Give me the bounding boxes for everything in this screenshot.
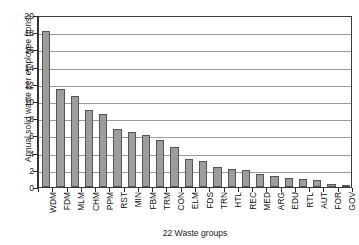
x-axis-title: 22 Waste groups [38, 228, 352, 238]
x-axis-tick-label: MLM [77, 192, 86, 226]
bar-rect [199, 161, 207, 187]
bar [170, 17, 178, 187]
y-axis-tick-label: 4 [16, 149, 34, 158]
bar [299, 17, 307, 187]
x-axis-tick-label: CHM [92, 192, 101, 226]
x-axis-tick-labels: WDMFDMMLMCHMPPMRSTMINFBMTRMCONELMFDSTRNH… [38, 192, 352, 226]
bar [99, 17, 107, 187]
bar-rect [256, 174, 264, 187]
bar-rect [85, 110, 93, 187]
bar-rect [327, 184, 335, 187]
bar [185, 17, 193, 187]
bar-rect [99, 114, 107, 187]
x-axis-tick-label: EDU [291, 192, 300, 226]
bar [71, 17, 79, 187]
x-axis-tick-label: FBM [149, 192, 158, 226]
x-axis-tick-label: REC [249, 192, 258, 226]
x-axis-tick-label: TRN [220, 192, 229, 226]
bar [156, 17, 164, 187]
x-axis-tick-label: FDS [206, 192, 215, 226]
bar-rect [285, 178, 293, 187]
bar-chart: Annual solid waste per employee (tons) 2… [0, 0, 359, 245]
x-axis-tick-label: HTL [234, 192, 243, 226]
bar [256, 17, 264, 187]
bar [213, 17, 221, 187]
bar [342, 17, 350, 187]
x-axis-tick-label: TRM [163, 192, 172, 226]
bar-rect [299, 179, 307, 187]
bar [113, 17, 121, 187]
bar-rect [185, 159, 193, 187]
y-axis-tick-label: 8 [16, 115, 34, 124]
bar-rect [170, 147, 178, 187]
x-axis-tick-label: ELM [191, 192, 200, 226]
bar [199, 17, 207, 187]
bar-rect [128, 132, 136, 187]
y-axis-tick-label: 20 [16, 12, 34, 21]
bar-rect [42, 31, 50, 187]
y-axis-tick-label: 14 [16, 63, 34, 72]
x-axis-tick-label: MIN [134, 192, 143, 226]
x-axis-tick-label: RST [120, 192, 129, 226]
y-axis-tick-label: 2 [16, 166, 34, 175]
x-axis-tick-label: AUT [320, 192, 329, 226]
y-axis-tick-label: 12 [16, 80, 34, 89]
bar-rect [228, 169, 236, 187]
bar-rect [313, 180, 321, 187]
bar [142, 17, 150, 187]
x-axis-tick-label: RTL [306, 192, 315, 226]
bar-rect [342, 185, 350, 187]
y-axis-tick-label: 0 [16, 184, 34, 193]
y-axis-tick-label: 18 [16, 29, 34, 38]
bar [242, 17, 250, 187]
x-axis-tick-label: PPM [106, 192, 115, 226]
bar-rect [213, 167, 221, 187]
bar [270, 17, 278, 187]
bar-rect [270, 176, 278, 187]
x-axis-tick-label: ARG [277, 192, 286, 226]
bar-rect [242, 170, 250, 187]
bar [327, 17, 335, 187]
bar [85, 17, 93, 187]
bar-rect [56, 89, 64, 187]
y-axis-tick-label: 6 [16, 132, 34, 141]
plot-area [38, 16, 352, 188]
bar [128, 17, 136, 187]
x-axis-tick-label: WDM [49, 192, 58, 226]
bar-rect [142, 135, 150, 187]
bar-rect [113, 129, 121, 187]
x-axis-tick-label: GOV [348, 192, 357, 226]
bar [285, 17, 293, 187]
y-axis-tick-labels: 20181614121086420 [16, 16, 34, 188]
y-axis-tick-label: 16 [16, 46, 34, 55]
bar [42, 17, 50, 187]
x-axis-tick-label: CON [177, 192, 186, 226]
bar-rect [156, 140, 164, 187]
x-axis-tick-label: FOR [334, 192, 343, 226]
x-axis-tick-label: FDM [63, 192, 72, 226]
bar [313, 17, 321, 187]
bar [56, 17, 64, 187]
bar [228, 17, 236, 187]
x-axis-tick-label: MED [263, 192, 272, 226]
bar-series [39, 17, 351, 187]
bar-rect [71, 96, 79, 187]
y-axis-tick-label: 10 [16, 98, 34, 107]
